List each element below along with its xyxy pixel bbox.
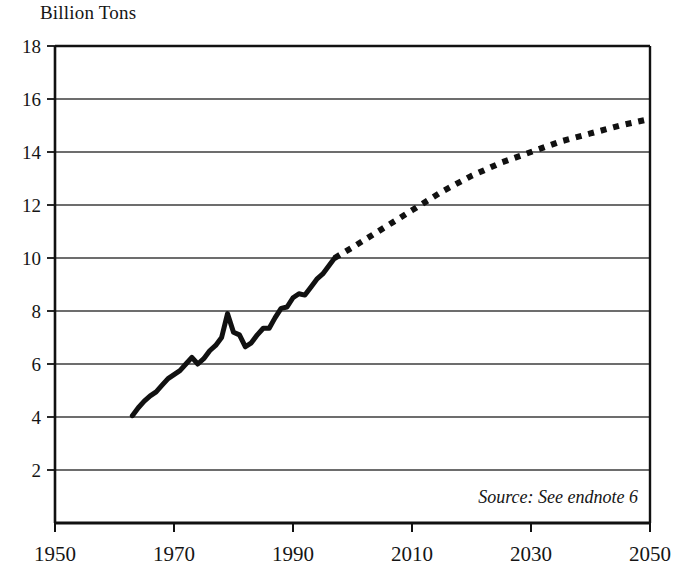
chart-figure: Billion Tons 181614121086421950197019902… bbox=[0, 0, 692, 588]
y-tick-label: 8 bbox=[32, 301, 42, 322]
x-tick-label: 2030 bbox=[510, 542, 552, 566]
series-line-projection bbox=[335, 119, 650, 258]
y-tick-label: 18 bbox=[22, 36, 41, 57]
y-tick-label: 14 bbox=[22, 142, 42, 163]
y-tick-label: 16 bbox=[22, 89, 41, 110]
x-tick-label: 1970 bbox=[153, 542, 195, 566]
y-tick-label: 2 bbox=[32, 460, 42, 481]
x-tick-label: 2010 bbox=[391, 542, 433, 566]
y-tick-label: 4 bbox=[32, 407, 42, 428]
x-tick-label: 1950 bbox=[34, 542, 76, 566]
x-tick-label: 1990 bbox=[272, 542, 314, 566]
y-tick-label: 6 bbox=[32, 354, 42, 375]
y-tick-label: 12 bbox=[22, 195, 41, 216]
series-line-historical bbox=[132, 258, 334, 416]
y-tick-label: 10 bbox=[22, 248, 41, 269]
x-tick-label: 2050 bbox=[629, 542, 671, 566]
source-note: Source: See endnote 6 bbox=[478, 487, 638, 508]
